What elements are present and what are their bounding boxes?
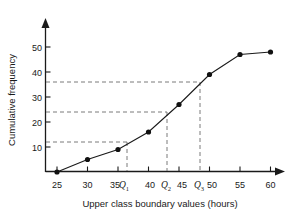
y-tick-label-20: 20 [32,118,42,128]
q3-axis-label: Q3 [194,180,204,192]
y-axis-arrowhead [42,18,50,28]
y-tick-label-30: 30 [32,93,42,103]
x-tick-label-50: 50 [207,180,217,190]
axes-group [42,18,286,176]
quartile-axis-labels: Q1 Q2 Q3 [119,180,204,192]
data-point-30 [85,157,90,162]
q2-axis-label: Q2 [161,180,171,192]
y-tick-label-50: 50 [32,43,42,53]
chart-canvas: 10 20 30 40 50 25 30 35 40 45 50 55 60 [0,0,293,221]
y-tick-label-10: 10 [32,143,42,153]
x-axis-title: Upper class boundary values (hours) [82,198,237,209]
x-tick-label-60: 60 [265,180,275,190]
x-tick-label-40: 40 [145,180,155,190]
data-point-45 [176,102,181,107]
x-tick-label-55: 55 [235,180,245,190]
y-axis-tick-labels: 10 20 30 40 50 [32,43,42,153]
q2-subscript: 2 [168,185,171,192]
data-point-50 [207,72,212,77]
q1-subscript: 1 [126,185,129,192]
data-point-55 [237,52,242,57]
x-axis-ticks [57,167,271,172]
y-axis-ticks [46,47,51,147]
x-tick-label-25: 25 [52,180,62,190]
data-point-40 [146,129,151,134]
cumulative-frequency-chart-figure: 10 20 30 40 50 25 30 35 40 45 50 55 60 [0,0,293,221]
x-axis-arrowhead [275,168,285,176]
x-tick-label-45: 45 [177,180,187,190]
q3-subscript: 3 [201,185,204,192]
quartile-guide-lines [46,82,200,171]
y-axis-title: Cumulative frequency [6,54,17,146]
data-point-25 [54,169,59,174]
y-tick-label-40: 40 [32,68,42,78]
data-point-60 [268,49,273,54]
x-tick-label-30: 30 [82,180,92,190]
data-point-35 [115,147,120,152]
q1-axis-label: Q1 [119,180,129,192]
data-point-markers [54,49,273,174]
